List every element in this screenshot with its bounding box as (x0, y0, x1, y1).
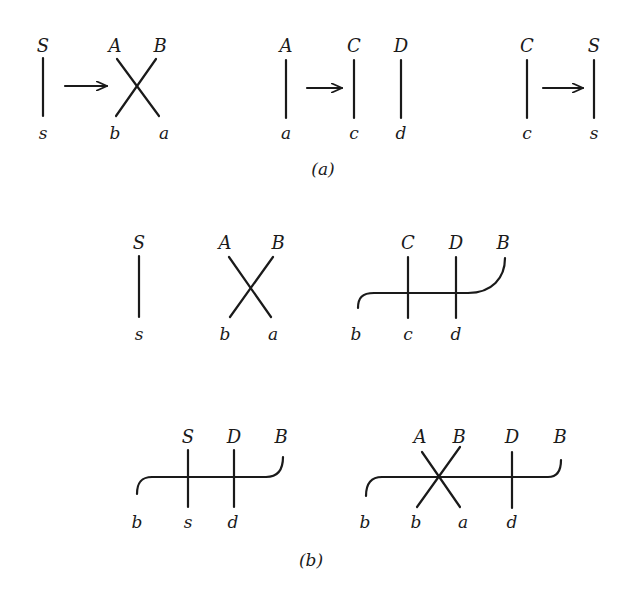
label-C: C (401, 232, 415, 253)
diagram-canvas: S s A B b a A a C c D d C c S s (a) S s (0, 0, 621, 593)
label-B: B (495, 232, 509, 253)
label-D: D (448, 232, 464, 253)
label-a: a (159, 123, 169, 143)
label-B: B (152, 35, 166, 56)
label-d: d (507, 512, 518, 532)
propagator-line-B (358, 258, 505, 308)
caption-a: (a) (311, 159, 334, 179)
label-S: S (133, 232, 145, 253)
label-A: A (107, 35, 122, 56)
label-S: S (37, 35, 49, 56)
part-b-row1-CD-propagator: C D B b c d (351, 232, 510, 344)
label-a: a (281, 123, 291, 143)
label-C: C (520, 35, 534, 56)
part-a-diagram-3: C c S s (520, 35, 600, 143)
propagator-line-B (137, 457, 283, 494)
label-s: s (184, 512, 193, 532)
label-b: b (110, 123, 121, 143)
propagator-line-B (366, 460, 561, 496)
label-A: A (278, 35, 293, 56)
label-D: D (226, 426, 242, 447)
label-s: s (590, 123, 599, 143)
label-B: B (273, 426, 287, 447)
label-d: d (228, 512, 239, 532)
label-c: c (349, 123, 359, 143)
label-D: D (504, 426, 520, 447)
label-B: B (451, 426, 465, 447)
label-a: a (268, 324, 278, 344)
label-A: A (217, 232, 232, 253)
feynman-diagram-figure: S s A B b a A a C c D d C c S s (a) S s (0, 0, 621, 593)
part-b-row2-SD-propagator: S D B b s d (132, 426, 288, 532)
label-A: A (412, 426, 427, 447)
label-S: S (588, 35, 600, 56)
part-a-diagram-2: A a C c D d (278, 35, 409, 143)
label-B: B (552, 426, 566, 447)
part-b-row1-AB-crossing: A B b a (217, 232, 285, 344)
label-a: a (458, 512, 468, 532)
label-c: c (403, 324, 413, 344)
label-B: B (270, 232, 284, 253)
label-c: c (522, 123, 532, 143)
label-b: b (411, 512, 422, 532)
label-d: d (396, 123, 407, 143)
label-s: s (135, 324, 144, 344)
label-b: b (351, 324, 362, 344)
label-d: d (451, 324, 462, 344)
label-b: b (360, 512, 371, 532)
caption-b: (b) (299, 550, 323, 570)
crossing-line-A-a (422, 452, 460, 507)
label-D: D (393, 35, 409, 56)
label-b: b (132, 512, 143, 532)
label-b: b (220, 324, 231, 344)
part-a-diagram-1: S s A B b a (37, 35, 169, 143)
label-C: C (347, 35, 361, 56)
label-S: S (182, 426, 194, 447)
part-b-row2-AB-crossing-D-propagator: A B D B b b a d (360, 426, 567, 532)
part-b-row1-S-line: S s (133, 232, 145, 344)
label-s: s (39, 123, 48, 143)
